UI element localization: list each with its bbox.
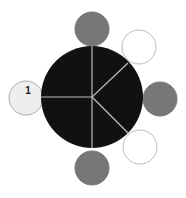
diagram-stage: 1 bbox=[0, 0, 186, 198]
hub-diagram: 1 bbox=[0, 0, 186, 198]
satellite-label: 1 bbox=[25, 85, 31, 96]
satellite-circle-lower-right bbox=[123, 130, 157, 164]
satellite-circle-bottom bbox=[75, 151, 109, 185]
satellite-circle-top bbox=[75, 12, 109, 46]
satellite-circle-upper-right bbox=[122, 30, 156, 64]
satellite-circle-right bbox=[143, 82, 177, 116]
